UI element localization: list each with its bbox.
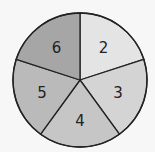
- sector-label: 2: [99, 39, 109, 57]
- sector-label: 3: [113, 84, 123, 102]
- spinner-diagram: 23456: [0, 0, 155, 152]
- sector-label: 5: [37, 84, 47, 102]
- sector-label: 4: [75, 112, 85, 130]
- sector-label: 6: [52, 39, 62, 57]
